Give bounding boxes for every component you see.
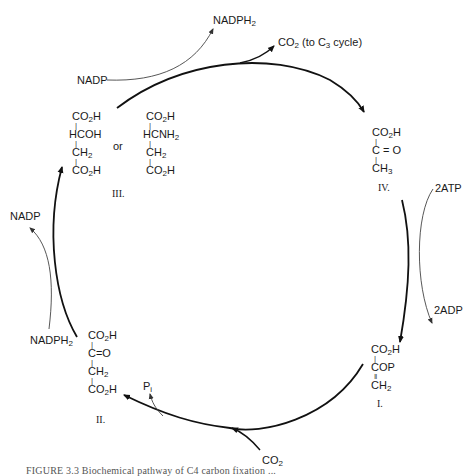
arrow-nadp-to-nadph2	[107, 29, 213, 80]
label-co2-to-c3-cycle: CO2 (to C3 cycle)	[278, 36, 362, 49]
label-roman-I: I.	[377, 398, 383, 409]
label-roman-IV: IV.	[378, 182, 390, 193]
label-2adp: 2ADP	[434, 304, 463, 317]
compound-III-malate: CO2H | HCOH | CH2 | CO2H	[72, 111, 101, 176]
arrow-nadph2-to-nadp	[30, 228, 51, 329]
label-or: or	[113, 140, 123, 153]
arrow-III-to-IV	[117, 63, 364, 112]
arrow-co2-in	[232, 428, 260, 450]
label-roman-II: II.	[96, 414, 105, 425]
label-pi: Pi	[143, 380, 152, 393]
label-nadph2-top: NADPH2	[213, 14, 256, 27]
label-roman-III: III.	[112, 188, 125, 199]
compound-I-pep: CO2H | COP ‖ CH2	[371, 344, 400, 391]
label-nadp-top: NADP	[77, 74, 108, 87]
compound-III-aspartate: CO2H | HCNH2 | CH2 | CO2H	[146, 111, 179, 176]
arrow-II-to-III	[53, 167, 77, 337]
figure-caption: FIGURE 3.3 Biochemical pathway of C4 car…	[26, 465, 276, 476]
label-nadph2-left: NADPH2	[30, 334, 73, 347]
arrow-atp-to-adp	[419, 189, 433, 323]
arrow-IV-to-I	[400, 200, 409, 342]
arrow-pi-out	[150, 394, 163, 416]
compound-IV-pyruvate: CO2H | C = O | CH3	[372, 127, 401, 174]
arrow-co2-release	[240, 46, 274, 63]
label-2atp: 2ATP	[435, 182, 462, 195]
arrow-I-to-II	[124, 364, 363, 430]
compound-II-oxaloacetate: CO2H | C=O | CH2 | CO2H	[88, 330, 117, 395]
label-nadp-left: NADP	[10, 210, 41, 223]
